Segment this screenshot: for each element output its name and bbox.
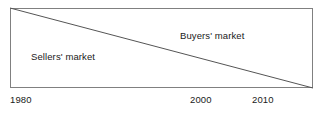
annotation-sellers-market: Sellers' market xyxy=(31,51,95,62)
annotation-buyers-market: Buyers' market xyxy=(180,30,244,41)
x-axis-tick-2000: 2000 xyxy=(190,94,212,105)
trend-line xyxy=(10,8,313,88)
x-axis-tick-1980: 1980 xyxy=(10,94,32,105)
market-trend-chart: Sellers' market Buyers' market 1980 2000… xyxy=(0,0,331,114)
x-axis-tick-2010: 2010 xyxy=(252,94,274,105)
trend-line-svg xyxy=(10,8,314,89)
